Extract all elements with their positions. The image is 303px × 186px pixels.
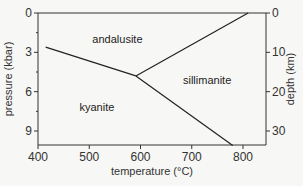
y2-axis-title: depth (km) bbox=[284, 53, 296, 106]
x-tick-label: 600 bbox=[130, 150, 150, 164]
x-tick-label: 700 bbox=[182, 150, 202, 164]
y2-tick-label: 0 bbox=[272, 6, 279, 20]
andalusite-sillimanite-boundary bbox=[136, 13, 248, 76]
x-tick-label: 500 bbox=[79, 150, 99, 164]
y-tick-label: 3 bbox=[25, 45, 32, 59]
kyanite-label: kyanite bbox=[80, 101, 115, 113]
plot-frame bbox=[38, 13, 266, 145]
kyanite-andalusite-boundary bbox=[46, 47, 136, 76]
y2-tick-label: 30 bbox=[272, 124, 286, 138]
y-tick-label: 0 bbox=[25, 6, 32, 20]
y-axis-title: pressure (kbar) bbox=[2, 42, 14, 117]
x-tick-label: 800 bbox=[233, 150, 253, 164]
axes bbox=[38, 13, 266, 145]
y-tick-label: 9 bbox=[25, 124, 32, 138]
y-tick-label: 6 bbox=[25, 85, 32, 99]
kyanite-sillimanite-boundary bbox=[136, 76, 233, 145]
phase-diagram: 40050060070080003690102030 andalusitesil… bbox=[0, 0, 303, 186]
x-tick-label: 400 bbox=[28, 150, 48, 164]
ticks: 40050060070080003690102030 bbox=[25, 6, 285, 164]
region-labels: andalusitesillimanitekyanite bbox=[80, 33, 232, 113]
sillimanite-label: sillimanite bbox=[183, 74, 231, 86]
andalusite-label: andalusite bbox=[92, 33, 142, 45]
x-axis-title: temperature (°C) bbox=[111, 165, 193, 177]
